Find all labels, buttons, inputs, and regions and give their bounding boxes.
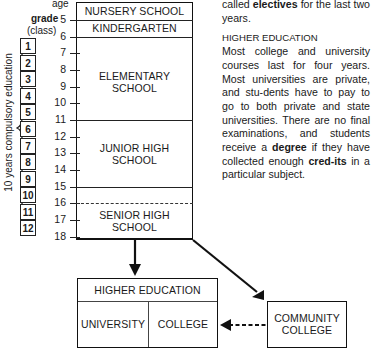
college-label: COLLEGE [149, 318, 217, 330]
arrow-down-icon [129, 264, 141, 276]
arrow-diagonal-icon [252, 290, 264, 300]
community-college-label: COMMUNITY COLLEGE [268, 312, 346, 336]
higher-education-title: HIGHER EDUCATION [78, 284, 217, 296]
arrow-left-icon [220, 319, 231, 331]
community-college-box: COMMUNITY COLLEGE [267, 301, 347, 348]
higher-education-box: HIGHER EDUCATION UNIVERSITY COLLEGE [77, 278, 218, 348]
university-label: UNIVERSITY [78, 318, 148, 330]
